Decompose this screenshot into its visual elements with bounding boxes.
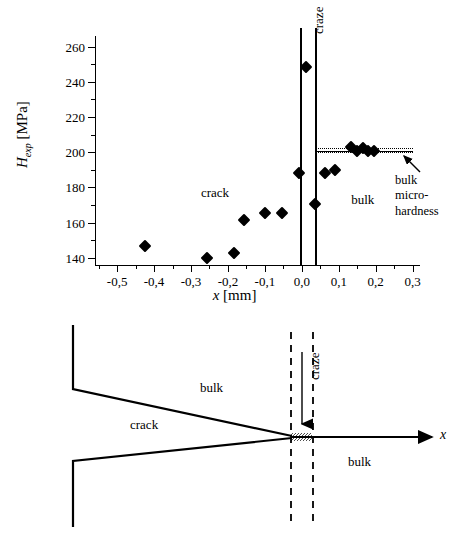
x-tick-minor	[136, 265, 137, 269]
plot-area: 140160180200220240260 -0,5-0,4-0,3-0,2-0…	[95, 36, 420, 265]
x-tick-minor	[320, 265, 321, 269]
data-point	[292, 167, 305, 180]
y-tick-label: 220	[66, 111, 86, 124]
y-tick-major	[88, 223, 95, 224]
region-label-bulk: bulk	[351, 192, 374, 207]
y-tick-major	[88, 47, 95, 48]
data-point	[228, 246, 241, 259]
x-axis-title: x [mm]	[0, 287, 469, 304]
x-axis-title-unit: [mm]	[223, 287, 256, 303]
y-tick-major	[88, 117, 95, 118]
y-axis-title: Hexp [MPa]	[14, 101, 33, 168]
y-axis-line	[95, 36, 96, 265]
x-tick-major	[302, 265, 303, 272]
x-tick-major	[117, 265, 118, 272]
x-tick-minor	[357, 265, 358, 269]
x-tick-minor	[246, 265, 247, 269]
y-tick-label: 260	[66, 40, 86, 53]
crack-lower-face	[73, 438, 292, 527]
y-tick-label: 180	[66, 181, 86, 194]
y-tick-major	[88, 258, 95, 259]
x-tick-major	[376, 265, 377, 272]
x-tick-major	[228, 265, 229, 272]
x-axis-line	[95, 265, 420, 266]
x-tick-minor	[209, 265, 210, 269]
bulk-microhardness-line-2: micro-	[395, 188, 439, 203]
data-point	[138, 239, 151, 252]
data-point	[309, 198, 322, 211]
crack-craze-schematic: bulk crack bulk craze x	[0, 312, 469, 545]
y-tick-minor	[91, 170, 95, 171]
y-tick-minor	[91, 99, 95, 100]
x-tick-minor	[99, 265, 100, 269]
data-point	[329, 164, 342, 177]
bulk-upper-label: bulk	[200, 380, 223, 396]
craze-line-right	[315, 28, 316, 265]
bulk-microhardness-annotation: bulk micro- hardness	[395, 173, 439, 219]
data-point	[201, 252, 214, 265]
x-tick-minor	[173, 265, 174, 269]
x-tick-major	[339, 265, 340, 272]
y-tick-label: 160	[66, 216, 86, 229]
y-tick-minor	[91, 205, 95, 206]
x-tick-minor	[283, 265, 284, 269]
schematic-svg	[0, 312, 469, 545]
bulk-microhardness-line-3: hardness	[395, 204, 439, 219]
figure-root: Hexp [MPa] 140160180200220240260 -0,5-0,…	[0, 0, 469, 545]
crack-label: crack	[130, 417, 158, 433]
x-tick-major	[191, 265, 192, 272]
y-tick-major	[88, 82, 95, 83]
x-tick-major	[265, 265, 266, 272]
craze-label-bottom: craze	[307, 353, 323, 380]
region-label-crack: crack	[201, 185, 229, 200]
y-tick-minor	[91, 64, 95, 65]
x-tick-minor	[394, 265, 395, 269]
y-tick-major	[88, 152, 95, 153]
x-axis-title-var: x	[213, 287, 220, 303]
y-tick-label: 140	[66, 251, 86, 264]
x-axis-arrow-label: x	[440, 427, 446, 443]
y-tick-major	[88, 187, 95, 188]
bulk-microhardness-line-1: bulk	[395, 173, 439, 188]
data-point	[259, 207, 272, 220]
y-tick-label: 240	[66, 75, 86, 88]
data-point	[300, 60, 313, 73]
microhardness-chart: Hexp [MPa] 140160180200220240260 -0,5-0,…	[0, 0, 469, 312]
y-tick-minor	[91, 135, 95, 136]
bulk-lower-label: bulk	[348, 454, 371, 470]
y-tick-minor	[91, 240, 95, 241]
data-point	[237, 214, 250, 227]
craze-label: craze	[311, 7, 327, 34]
crack-upper-face	[73, 325, 292, 436]
data-point	[275, 207, 288, 220]
x-tick-major	[154, 265, 155, 272]
x-tick-major	[413, 265, 414, 272]
y-tick-label: 200	[66, 146, 86, 159]
